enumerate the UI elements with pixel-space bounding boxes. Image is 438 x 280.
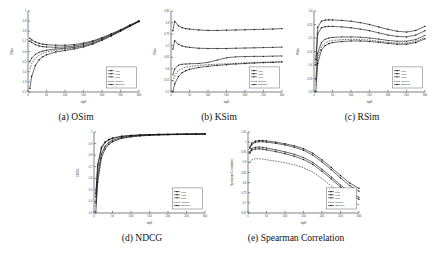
svg-text:0.8: 0.8 xyxy=(89,153,93,157)
svg-text:topK: topK xyxy=(224,100,230,104)
svg-text:0.3: 0.3 xyxy=(89,211,93,215)
svg-text:300: 300 xyxy=(137,93,142,97)
panel-rsim: 0501001502002503000.30.350.40.450.50.550… xyxy=(292,4,432,123)
svg-text:0: 0 xyxy=(313,93,315,97)
panel-ndcg: 0501001502002503000.30.40.50.60.70.80.91… xyxy=(72,125,212,244)
svg-text:OSim: OSim xyxy=(10,47,14,54)
svg-text:0.5: 0.5 xyxy=(309,36,313,40)
svg-text:200: 200 xyxy=(320,214,325,218)
svg-text:0.6: 0.6 xyxy=(23,50,27,54)
svg-text:150: 150 xyxy=(81,93,86,97)
svg-text:100: 100 xyxy=(63,93,68,97)
svg-text:LM3: LM3 xyxy=(401,76,406,79)
svg-text:Spearman Correlation: Spearman Correlation xyxy=(230,159,234,186)
svg-text:Baseline: Baseline xyxy=(181,204,191,207)
svg-text:1: 1 xyxy=(25,9,27,13)
svg-text:200: 200 xyxy=(166,214,171,218)
svg-text:200: 200 xyxy=(386,93,391,97)
svg-text:0.7: 0.7 xyxy=(89,165,93,169)
svg-text:250: 250 xyxy=(184,214,189,218)
svg-text:0.6: 0.6 xyxy=(166,67,170,71)
svg-text:0.75: 0.75 xyxy=(241,191,247,195)
svg-text:300: 300 xyxy=(423,93,428,97)
svg-text:0.8: 0.8 xyxy=(166,21,170,25)
svg-text:0: 0 xyxy=(93,214,95,218)
svg-text:0.45: 0.45 xyxy=(307,50,313,54)
svg-text:0.75: 0.75 xyxy=(164,32,170,36)
caption-osim: (a) OSim xyxy=(58,112,93,123)
svg-text:150: 150 xyxy=(301,214,306,218)
svg-text:Baseline: Baseline xyxy=(335,204,345,207)
caption-rsim: (c) RSim xyxy=(345,112,380,123)
svg-text:0.7: 0.7 xyxy=(23,39,27,43)
svg-text:100: 100 xyxy=(206,93,211,97)
svg-text:1: 1 xyxy=(91,130,93,134)
svg-text:50: 50 xyxy=(45,93,48,97)
panel-spearman: 0501001502002503000.650.70.750.80.850.90… xyxy=(226,125,366,244)
svg-text:150: 150 xyxy=(147,214,152,218)
svg-text:0.5: 0.5 xyxy=(23,60,27,64)
svg-text:250: 250 xyxy=(338,214,343,218)
plot-ndcg: 0501001502002503000.30.40.50.60.70.80.91… xyxy=(72,125,212,233)
svg-text:topK: topK xyxy=(367,100,373,104)
svg-text:150: 150 xyxy=(224,93,229,97)
svg-text:50: 50 xyxy=(188,93,191,97)
svg-text:RSim: RSim xyxy=(296,47,300,54)
svg-text:LM3: LM3 xyxy=(115,76,120,79)
svg-text:100: 100 xyxy=(349,93,354,97)
svg-text:0.8: 0.8 xyxy=(23,29,27,33)
figure-row-bottom: 0501001502002503000.30.40.50.60.70.80.91… xyxy=(0,125,438,244)
svg-text:0.85: 0.85 xyxy=(241,171,247,175)
svg-text:KSim: KSim xyxy=(153,48,157,55)
plot-spearman: 0501001502002503000.650.70.750.80.850.90… xyxy=(226,125,366,233)
plot-rsim: 0501001502002503000.30.350.40.450.50.550… xyxy=(292,4,432,112)
svg-text:0.5: 0.5 xyxy=(89,188,93,192)
svg-text:0.85: 0.85 xyxy=(164,9,170,13)
svg-text:0: 0 xyxy=(247,214,249,218)
caption-spearman: (e) Spearman Correlation xyxy=(248,233,345,244)
svg-text:250: 250 xyxy=(404,93,409,97)
svg-text:0.7: 0.7 xyxy=(243,201,247,205)
svg-text:0.35: 0.35 xyxy=(307,77,313,81)
svg-text:LM3: LM3 xyxy=(181,197,186,200)
svg-text:0.2: 0.2 xyxy=(23,90,27,94)
svg-text:0.3: 0.3 xyxy=(309,90,313,94)
svg-text:0.5: 0.5 xyxy=(166,90,170,94)
svg-text:0.8: 0.8 xyxy=(243,181,247,185)
svg-text:50: 50 xyxy=(265,214,268,218)
caption-ndcg: (d) NDCG xyxy=(122,233,162,244)
svg-text:200: 200 xyxy=(100,93,105,97)
chart-rsim: 0501001502002503000.30.350.40.450.50.550… xyxy=(292,4,432,112)
svg-text:0.6: 0.6 xyxy=(309,9,313,13)
plot-osim: 0501001502002503000.20.30.40.50.60.70.80… xyxy=(6,4,146,112)
svg-text:250: 250 xyxy=(261,93,266,97)
svg-text:1: 1 xyxy=(245,140,247,144)
svg-text:0.3: 0.3 xyxy=(23,80,27,84)
svg-text:0.55: 0.55 xyxy=(164,78,170,82)
svg-text:LM3: LM3 xyxy=(335,197,340,200)
svg-text:0.6: 0.6 xyxy=(89,176,93,180)
svg-text:1.05: 1.05 xyxy=(241,130,247,134)
svg-text:NDCG: NDCG xyxy=(76,169,80,177)
svg-text:300: 300 xyxy=(357,214,362,218)
svg-text:50: 50 xyxy=(111,214,114,218)
svg-text:Baseline: Baseline xyxy=(115,83,125,86)
caption-ksim: (b) KSim xyxy=(201,112,237,123)
svg-text:0: 0 xyxy=(27,93,29,97)
svg-text:0.4: 0.4 xyxy=(309,63,313,67)
svg-text:200: 200 xyxy=(243,93,248,97)
chart-ndcg: 0501001502002503000.30.40.50.60.70.80.91… xyxy=(72,125,212,233)
svg-text:0: 0 xyxy=(170,93,172,97)
svg-text:0.55: 0.55 xyxy=(307,23,313,27)
svg-text:0.4: 0.4 xyxy=(89,199,93,203)
svg-text:0.9: 0.9 xyxy=(89,142,93,146)
plot-ksim: 0501001502002503000.50.550.60.650.70.750… xyxy=(149,4,289,112)
svg-text:topK: topK xyxy=(147,221,153,225)
svg-text:Baseline: Baseline xyxy=(401,83,411,86)
svg-text:0.65: 0.65 xyxy=(241,211,247,215)
svg-text:100: 100 xyxy=(283,214,288,218)
chart-ksim: 0501001502002503000.50.550.60.650.70.750… xyxy=(149,4,289,112)
svg-text:topK: topK xyxy=(301,221,307,225)
svg-text:150: 150 xyxy=(367,93,372,97)
svg-text:250: 250 xyxy=(118,93,123,97)
